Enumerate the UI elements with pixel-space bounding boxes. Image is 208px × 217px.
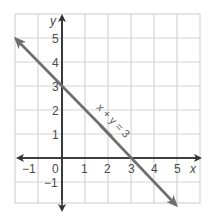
x-tick: −1 — [22, 162, 36, 176]
y-axis-label: y — [49, 14, 57, 28]
function-line-lower — [100, 125, 176, 205]
x-tick: 5 — [174, 162, 181, 176]
y-tick: 2 — [52, 104, 59, 118]
y-tick: 5 — [52, 32, 59, 46]
x-tick: 2 — [104, 162, 111, 176]
x-tick: 4 — [151, 162, 158, 176]
x-axis-label: x — [189, 162, 197, 176]
x-tick: 1 — [81, 162, 88, 176]
x-tick: 0 — [52, 162, 59, 176]
coordinate-plane: y x −1 0 1 2 3 4 5 5 4 3 2 1 −1 x + y = … — [0, 0, 208, 217]
y-tick: 1 — [52, 128, 59, 142]
y-tick: 4 — [52, 56, 59, 70]
x-tick: 3 — [128, 162, 135, 176]
x-tick-labels: −1 0 1 2 3 4 5 — [22, 162, 181, 176]
function-line — [16, 39, 112, 137]
y-tick: −1 — [44, 176, 58, 190]
y-tick: 3 — [52, 80, 59, 94]
